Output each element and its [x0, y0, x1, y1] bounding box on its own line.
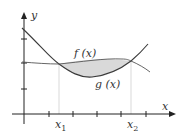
x1-label: x1 [55, 118, 66, 133]
area-between-curves-diagram: y x f (x) g (x) x1 x2 [0, 0, 185, 134]
x-axis-arrow-icon [169, 111, 176, 117]
f-label: f (x) [73, 47, 96, 60]
y-axis-label: y [30, 9, 38, 22]
x2-label: x2 [127, 118, 138, 133]
g-label: g (x) [95, 78, 120, 91]
x-axis-label: x [162, 100, 169, 113]
y-axis-arrow-icon [21, 12, 27, 19]
